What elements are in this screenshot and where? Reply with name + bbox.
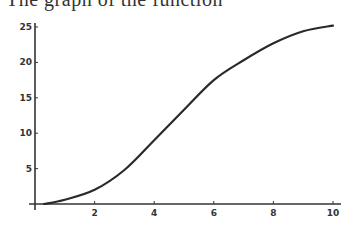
y-tick-label: 15 <box>19 93 32 103</box>
axes <box>29 23 341 210</box>
y-tick-label: 25 <box>19 22 32 32</box>
y-tick-label: 5 <box>26 164 32 174</box>
y-tick-label: 20 <box>19 57 32 67</box>
x-tick-label: 6 <box>211 208 217 218</box>
x-tick-label: 2 <box>91 208 97 218</box>
data-line <box>44 26 333 204</box>
y-tick-label: 10 <box>19 128 32 138</box>
x-tick-label: 4 <box>151 208 157 218</box>
axis-ticks: 246810510152025 <box>19 22 339 218</box>
x-tick-label: 8 <box>270 208 276 218</box>
x-tick-label: 10 <box>327 208 340 218</box>
line-chart: 246810510152025 <box>0 0 359 228</box>
